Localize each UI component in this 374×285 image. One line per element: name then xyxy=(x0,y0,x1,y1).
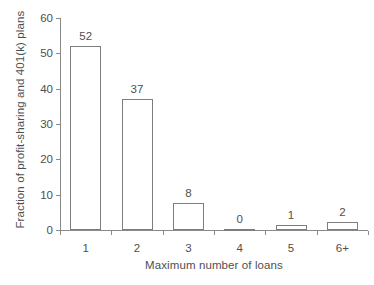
x-axis-tick-mark xyxy=(368,231,369,235)
x-axis-tick-mark xyxy=(163,231,164,235)
x-axis-tick-label: 5 xyxy=(288,242,294,254)
y-axis-tick-label: 0 xyxy=(47,224,53,236)
bar-value-label: 37 xyxy=(131,83,144,95)
x-axis-tick-label: 4 xyxy=(236,242,242,254)
plot-area: 0102030405060 123456+ 52378012 xyxy=(60,18,368,230)
y-axis-tick-mark xyxy=(56,89,60,90)
y-axis-tick-mark xyxy=(56,18,60,19)
bar xyxy=(276,225,307,230)
y-axis-tick-mark xyxy=(56,195,60,196)
y-axis-tick-label: 10 xyxy=(40,189,53,201)
bar-value-label: 0 xyxy=(236,213,242,225)
y-axis-tick-mark xyxy=(56,53,60,54)
x-axis-tick-mark xyxy=(60,231,61,235)
x-axis-tick-label: 3 xyxy=(185,242,191,254)
x-axis-title: Maximum number of loans xyxy=(60,259,368,271)
y-axis-tick-label: 50 xyxy=(40,47,53,59)
y-axis-line xyxy=(60,18,61,231)
y-axis-tick-label: 40 xyxy=(40,83,53,95)
x-axis-tick-label: 1 xyxy=(82,242,88,254)
bar xyxy=(70,46,101,230)
x-axis-tick-mark xyxy=(317,231,318,235)
y-axis-title: Fraction of profit-sharing and 401(k) pl… xyxy=(12,14,28,229)
y-axis-tick-label: 20 xyxy=(40,153,53,165)
x-axis-tick-mark xyxy=(214,231,215,235)
x-axis-tick-mark xyxy=(111,231,112,235)
y-axis-tick-mark xyxy=(56,159,60,160)
x-axis-tick-label: 2 xyxy=(134,242,140,254)
bar-chart-figure: Fraction of profit-sharing and 401(k) pl… xyxy=(0,0,374,285)
bar-value-label: 1 xyxy=(288,209,294,221)
bar-value-label: 52 xyxy=(79,30,92,42)
x-axis-tick-label: 6+ xyxy=(336,242,349,254)
bar xyxy=(173,203,204,230)
x-axis-tick-mark xyxy=(265,231,266,235)
y-axis-tick-label: 60 xyxy=(40,12,53,24)
y-axis-tick-mark xyxy=(56,124,60,125)
y-axis-tick-label: 30 xyxy=(40,118,53,130)
bar-value-label: 2 xyxy=(339,206,345,218)
bar xyxy=(122,99,153,230)
bar-value-label: 8 xyxy=(185,187,191,199)
bar xyxy=(327,222,358,230)
bar xyxy=(224,229,255,231)
